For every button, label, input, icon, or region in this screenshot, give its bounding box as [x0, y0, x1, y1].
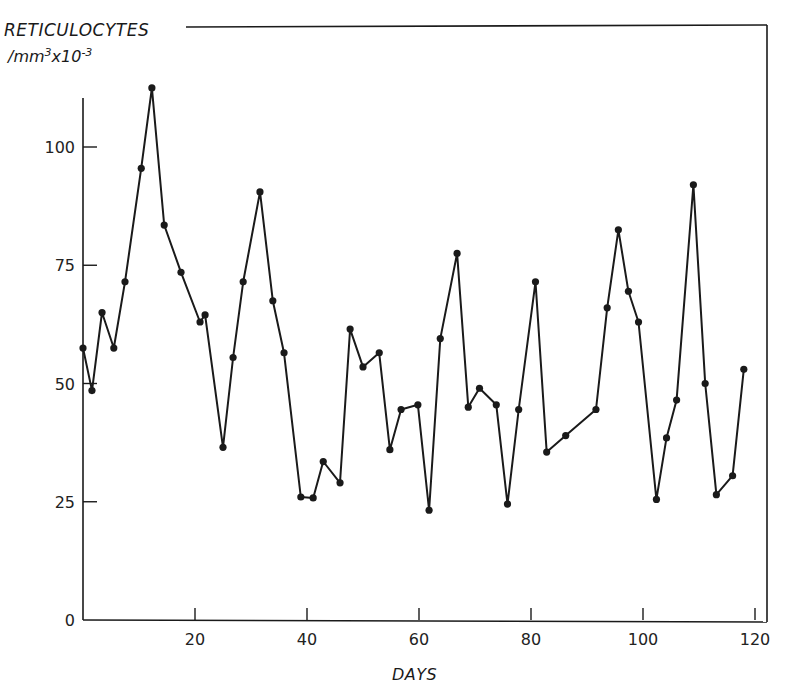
- data-point-marker: [465, 404, 472, 411]
- data-point-marker: [562, 432, 569, 439]
- data-point-marker: [88, 387, 95, 394]
- data-point-marker: [729, 472, 736, 479]
- data-point-marker: [110, 344, 117, 351]
- data-point-marker: [376, 349, 383, 356]
- line-chart: 025507510020406080100120: [0, 0, 790, 699]
- y-tick-label: 75: [55, 256, 75, 275]
- data-point-marker: [673, 396, 680, 403]
- data-point-marker: [121, 278, 128, 285]
- x-tick-label: 100: [628, 630, 659, 649]
- data-point-marker: [625, 288, 632, 295]
- data-point-marker: [240, 278, 247, 285]
- data-point-marker: [280, 349, 287, 356]
- data-point-marker: [161, 221, 168, 228]
- data-point-marker: [476, 385, 483, 392]
- data-point-marker: [592, 406, 599, 413]
- data-point-marker: [347, 326, 354, 333]
- y-tick-label: 50: [55, 375, 75, 394]
- data-point-marker: [310, 494, 317, 501]
- data-point-marker: [256, 188, 263, 195]
- data-point-marker: [713, 491, 720, 498]
- data-point-marker: [604, 304, 611, 311]
- data-point-marker: [493, 401, 500, 408]
- data-point-marker: [98, 309, 105, 316]
- x-axis-line: [83, 620, 767, 622]
- data-point-marker: [515, 406, 522, 413]
- data-point-marker: [320, 458, 327, 465]
- y-tick-label: 100: [44, 138, 75, 157]
- data-point-marker: [397, 406, 404, 413]
- data-point-marker: [297, 493, 304, 500]
- data-point-marker: [148, 84, 155, 91]
- data-point-marker: [504, 501, 511, 508]
- x-tick-label: 20: [185, 630, 205, 649]
- data-point-marker: [437, 335, 444, 342]
- data-point-marker: [653, 496, 660, 503]
- x-tick-label: 80: [521, 630, 541, 649]
- y-tick-label: 25: [55, 493, 75, 512]
- data-point-marker: [702, 380, 709, 387]
- data-point-marker: [138, 165, 145, 172]
- data-point-marker: [453, 250, 460, 257]
- frame-top-border: [186, 25, 767, 27]
- data-point-marker: [663, 434, 670, 441]
- data-point-marker: [196, 318, 203, 325]
- data-point-marker: [336, 479, 343, 486]
- data-point-marker: [386, 446, 393, 453]
- y-tick-label: 0: [65, 611, 75, 630]
- x-tick-label: 120: [740, 630, 771, 649]
- data-point-marker: [690, 181, 697, 188]
- data-point-marker: [177, 269, 184, 276]
- data-point-marker: [79, 344, 86, 351]
- data-point-marker: [201, 311, 208, 318]
- data-point-marker: [615, 226, 622, 233]
- data-point-marker: [359, 363, 366, 370]
- data-point-marker: [229, 354, 236, 361]
- data-point-marker: [414, 401, 421, 408]
- x-tick-label: 60: [409, 630, 429, 649]
- data-point-marker: [532, 278, 539, 285]
- data-point-marker: [425, 507, 432, 514]
- data-point-marker: [219, 444, 226, 451]
- data-point-marker: [543, 448, 550, 455]
- data-point-marker: [635, 318, 642, 325]
- data-line: [83, 88, 744, 510]
- x-tick-label: 40: [297, 630, 317, 649]
- data-point-marker: [269, 297, 276, 304]
- data-point-marker: [740, 366, 747, 373]
